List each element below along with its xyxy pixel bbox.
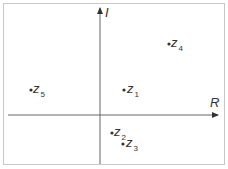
point-z3 xyxy=(121,142,124,145)
label-z4: z4 xyxy=(171,36,182,49)
imag-axis-label: I xyxy=(105,6,109,19)
label-z5: z5 xyxy=(33,82,44,95)
label-z1: z1 xyxy=(127,82,138,95)
label-z2: z2 xyxy=(114,125,125,138)
real-axis-label: R xyxy=(210,96,219,109)
label-z3: z3 xyxy=(126,136,137,149)
point-z1 xyxy=(122,88,125,91)
